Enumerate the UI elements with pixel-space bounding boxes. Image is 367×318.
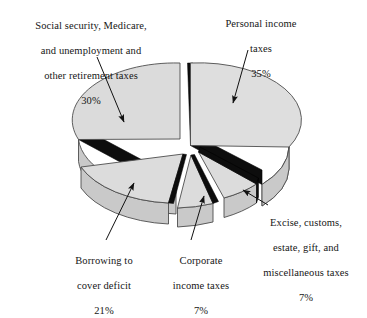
label-excise-line2: estate, gift, and — [273, 242, 339, 253]
label-excise-customs: Excise, customs, estate, gift, and misce… — [246, 205, 366, 317]
label-personal-income-line2: taxes — [250, 43, 272, 54]
label-corporate-percent: 7% — [145, 305, 257, 317]
label-excise-line3: miscellaneous taxes — [263, 267, 349, 278]
label-personal-income: Personal income taxes 35% — [186, 6, 336, 93]
label-social-security-line3: other retirement taxes — [44, 70, 138, 81]
label-excise-line1: Excise, customs, — [270, 217, 342, 228]
label-excise-percent: 7% — [246, 292, 366, 304]
label-social-security: Social security, Medicare, and unemploym… — [2, 8, 180, 120]
label-corporate-line1: Corporate — [180, 255, 223, 266]
label-personal-income-percent: 35% — [186, 68, 336, 80]
label-social-security-line1: Social security, Medicare, — [35, 20, 147, 31]
label-corporate-income: Corporate income taxes 7% — [145, 243, 257, 318]
label-personal-income-line1: Personal income — [225, 18, 296, 29]
label-borrowing-line2: cover deficit — [77, 280, 131, 291]
label-social-security-line2: and unemployment and — [41, 45, 142, 56]
label-borrowing-percent: 21% — [48, 305, 160, 317]
label-borrowing-deficit: Borrowing to cover deficit 21% — [48, 243, 160, 318]
label-corporate-line2: income taxes — [173, 280, 229, 291]
label-social-security-percent: 30% — [2, 95, 180, 107]
label-borrowing-line1: Borrowing to — [75, 255, 133, 266]
